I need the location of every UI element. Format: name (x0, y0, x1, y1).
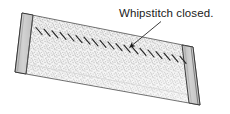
whipstitch-label: Whipstitch closed. (119, 7, 213, 20)
figure-root: Whipstitch closed. (0, 0, 230, 114)
